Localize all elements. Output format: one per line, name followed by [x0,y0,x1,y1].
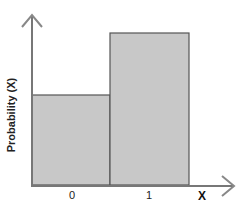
x-tick-1: 1 [146,189,152,201]
bar-1 [110,33,189,185]
x-axis-label: X [198,189,206,203]
bar-chart [0,0,244,212]
bar-0 [32,95,110,185]
x-tick-0: 0 [69,189,75,201]
y-axis-label: Probability (X) [5,78,17,153]
